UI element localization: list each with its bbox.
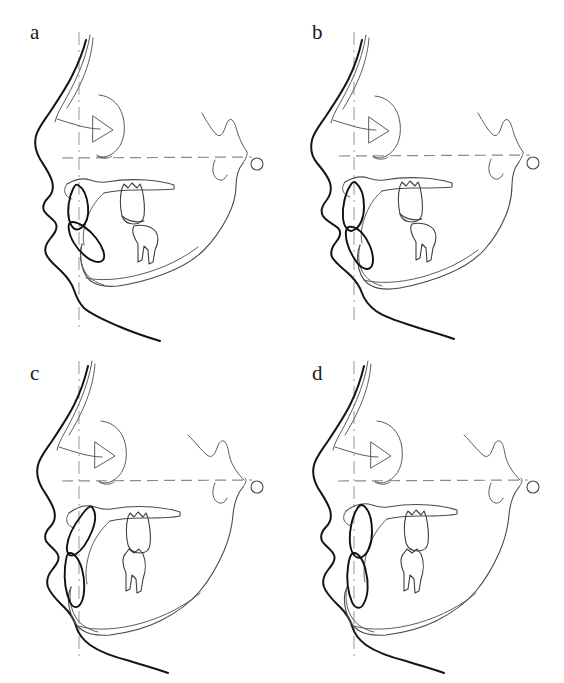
- mandible-outline: [69, 487, 243, 635]
- sella-turcica-hook: [213, 160, 227, 180]
- maxillary-sinus-outline: [99, 421, 126, 483]
- mandible-condyle-neck: [519, 152, 523, 162]
- mandible-lower-border-inner: [78, 593, 200, 629]
- panel-c: c: [0, 341, 282, 683]
- soft-tissue-profile: [311, 40, 454, 339]
- cranial-base-anterior: [59, 447, 102, 457]
- panel-a: a: [0, 0, 282, 342]
- sella-cranial-base-outline: [202, 113, 247, 152]
- maxilla-palate-outline: [69, 506, 180, 521]
- nasal-dorsum-inner: [67, 38, 93, 108]
- cephalometric-figure: a: [0, 0, 564, 683]
- lower-molar: [133, 225, 158, 264]
- maxilla-anterior-nasal-spine: [67, 513, 74, 528]
- frankfort-horizontal-line: [339, 155, 530, 156]
- panel-b: b: [282, 0, 564, 342]
- sella-turcica-hook: [489, 483, 503, 503]
- nasal-dorsum-inner: [69, 364, 95, 435]
- nasal-bone-outline: [55, 35, 90, 122]
- frankfort-horizontal-line: [62, 157, 252, 158]
- sella-turcica-hook: [213, 483, 227, 503]
- panel-c-tracing: [0, 341, 282, 683]
- mandible-outline: [358, 162, 519, 289]
- lower-molar: [411, 223, 436, 262]
- porion-marker-circle: [527, 481, 539, 493]
- mandible-symphysis-inner: [359, 245, 382, 286]
- porion-marker-circle: [251, 158, 263, 170]
- mandible-lower-border-inner: [354, 593, 476, 629]
- cranial-base-anterior: [57, 119, 100, 129]
- sella-turcica-hook: [489, 159, 503, 179]
- sella-cranial-base-outline: [478, 113, 523, 152]
- nasal-dorsum-inner: [345, 364, 371, 435]
- cranial-base-anterior: [335, 447, 378, 457]
- maxilla-alveolar-curve: [86, 521, 110, 584]
- lower-molar: [401, 549, 423, 593]
- upper-incisor: [350, 505, 372, 558]
- orbit-outline: [371, 442, 391, 468]
- mandible-symphysis-inner: [346, 587, 374, 632]
- panel-a-tracing: [0, 0, 282, 342]
- soft-tissue-profile: [313, 366, 444, 673]
- lower-incisor: [65, 553, 85, 607]
- panel-b-tracing: [282, 0, 564, 342]
- mandible-outline: [345, 487, 519, 635]
- panel-d: d: [282, 341, 564, 683]
- frankfort-horizontal-line: [62, 480, 252, 481]
- mandible-condyle-neck: [243, 152, 247, 163]
- maxillary-sinus-outline: [97, 95, 124, 157]
- lower-molar: [123, 549, 145, 593]
- orbit-outline: [95, 442, 115, 468]
- sella-cranial-base-outline: [188, 435, 244, 480]
- panel-d-tracing: [282, 341, 564, 683]
- maxilla-anterior-nasal-spine: [344, 511, 351, 526]
- porion-marker-circle: [251, 481, 263, 493]
- frankfort-horizontal-line: [338, 480, 528, 481]
- sella-cranial-base-outline: [464, 435, 520, 480]
- maxillary-sinus-outline: [373, 96, 400, 158]
- maxillary-sinus-outline: [375, 421, 402, 483]
- nasal-dorsum-inner: [343, 38, 369, 109]
- porion-marker-circle: [527, 157, 539, 169]
